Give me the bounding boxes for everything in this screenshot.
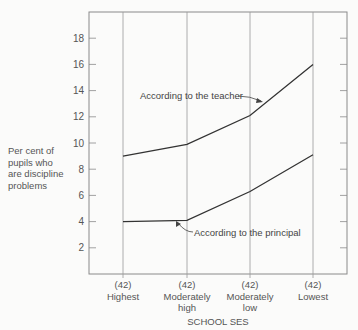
x-axis-label: SCHOOL SES [187,316,248,327]
y-tick-label: 4 [78,216,84,227]
teacher-annotation: According to the teacher [140,90,243,101]
x-category-label: (42) [305,279,322,290]
y-tick-label: 18 [73,33,85,44]
x-category-label: low [243,302,257,313]
x-category-label: Moderately [164,291,211,302]
line-chart: 24681012141618(42)Highest(42)Moderatelyh… [0,0,358,330]
principal-annotation: According to the principal [194,227,301,238]
y-tick-label: 2 [78,242,84,253]
x-category-label: Lowest [298,291,328,302]
x-category-label: (42) [242,279,259,290]
y-tick-label: 8 [78,164,84,175]
y-tick-label: 10 [73,138,85,149]
principal-series-line [123,155,313,222]
y-tick-label: 12 [73,111,85,122]
x-category-label: high [178,302,196,313]
x-category-label: Moderately [227,291,274,302]
x-category-label: (42) [115,279,132,290]
y-tick-label: 16 [73,59,85,70]
y-tick-label: 14 [73,85,85,96]
teacher-series-line [123,64,313,156]
x-category-label: Highest [107,291,140,302]
teacher-arrowhead-icon [256,98,263,103]
x-category-label: (42) [179,279,196,290]
y-tick-label: 6 [78,190,84,201]
